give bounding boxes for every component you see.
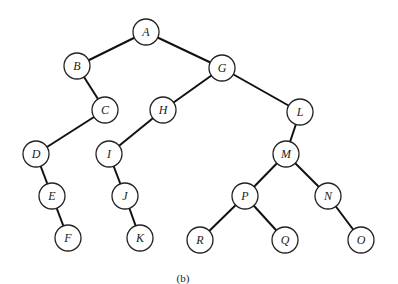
tree-node-o: O <box>348 227 374 253</box>
node-label: D <box>31 147 41 161</box>
node-label: P <box>240 189 249 203</box>
node-label: A <box>141 25 150 39</box>
tree-node-c: C <box>92 97 118 123</box>
tree-nodes: ABGCHLDIMEJPNFKRQO <box>23 19 374 253</box>
tree-node-p: P <box>232 183 258 209</box>
tree-node-m: M <box>273 141 299 167</box>
tree-node-e: E <box>39 183 65 209</box>
tree-node-q: Q <box>272 227 298 253</box>
tree-node-a: A <box>133 19 159 45</box>
tree-node-g: G <box>209 55 235 81</box>
figure-caption: (b) <box>177 272 190 284</box>
binary-tree-diagram: ABGCHLDIMEJPNFKRQO (b) <box>0 0 398 284</box>
tree-node-k: K <box>127 225 153 251</box>
tree-node-h: H <box>150 97 176 123</box>
node-label: B <box>73 59 81 73</box>
node-label: J <box>122 189 128 203</box>
node-label: K <box>135 231 145 245</box>
node-label: R <box>195 233 204 247</box>
node-label: N <box>323 189 333 203</box>
tree-node-r: R <box>187 227 213 253</box>
node-label: C <box>101 103 110 117</box>
tree-node-f: F <box>55 225 81 251</box>
node-label: E <box>47 189 56 203</box>
tree-node-i: I <box>96 141 122 167</box>
node-label: M <box>280 147 292 161</box>
node-label: F <box>63 231 72 245</box>
node-label: G <box>218 61 227 75</box>
tree-node-d: D <box>23 141 49 167</box>
tree-node-l: L <box>287 99 313 125</box>
node-label: Q <box>281 233 290 247</box>
tree-node-j: J <box>112 183 138 209</box>
node-label: L <box>296 105 304 119</box>
node-label: O <box>357 233 366 247</box>
node-label: H <box>158 103 169 117</box>
tree-node-b: B <box>64 53 90 79</box>
tree-node-n: N <box>315 183 341 209</box>
